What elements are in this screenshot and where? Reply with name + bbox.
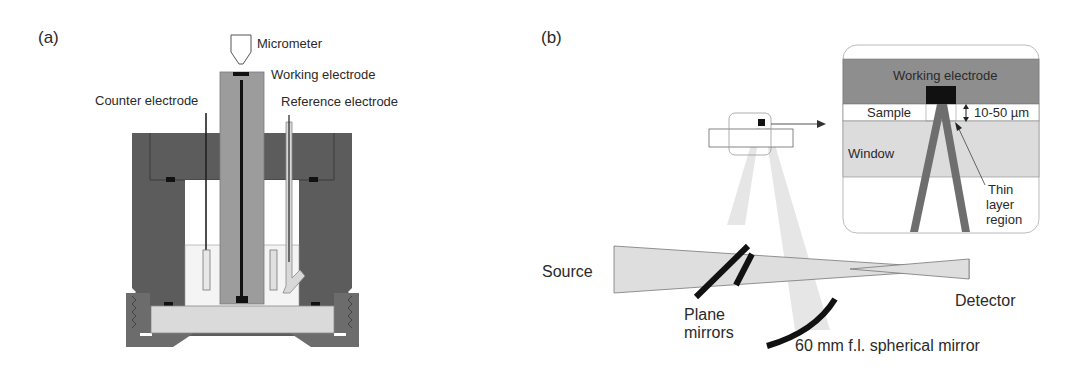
mesh-electrode-icon: [270, 250, 277, 290]
optical-window: [151, 306, 334, 333]
figure-canvas: (a): [0, 0, 1069, 378]
electrode-tip-icon: [758, 119, 765, 126]
plane-mirrors-label-2: mirrors: [684, 324, 734, 341]
counter-electrode-label: Counter electrode: [95, 93, 198, 108]
arrow-head-icon: [817, 120, 826, 128]
o-ring-icon: [309, 177, 318, 182]
spherical-mirror-label: 60 mm f.l. spherical mirror: [795, 337, 981, 354]
panel-a: (a): [38, 28, 398, 347]
panel-b: (b) Source Detector Plane mirrors 60 mm …: [541, 28, 1039, 354]
inset: Working electrode Sample 10-50 µm Window…: [843, 45, 1039, 233]
working-electrode-holder: [220, 72, 264, 304]
sample-stage: [709, 129, 793, 147]
inset-working-electrode-label: Working electrode: [893, 68, 998, 83]
micrometer-icon: [231, 35, 251, 64]
electrode-tip-icon: [236, 296, 248, 303]
inset-window-label: Window: [848, 146, 895, 161]
panel-a-label: (a): [38, 28, 59, 47]
thin-layer-label-3: region: [986, 212, 1022, 227]
micrometer-label: Micrometer: [257, 36, 323, 51]
plane-mirrors-label-1: Plane: [684, 306, 725, 323]
inset-electrode-tip: [926, 86, 956, 104]
panel-b-label: (b): [541, 28, 562, 47]
inset-thickness-label: 10-50 µm: [974, 105, 1029, 120]
reference-electrode-label: Reference electrode: [281, 94, 398, 109]
o-ring-icon: [166, 177, 175, 182]
electrode-tip-icon: [233, 72, 249, 76]
thin-layer-label-2: layer: [986, 197, 1015, 212]
thin-layer-label-1: Thin: [988, 182, 1013, 197]
beam-down: [765, 128, 830, 330]
source-label: Source: [542, 263, 593, 280]
working-electrode-label: Working electrode: [271, 67, 376, 82]
inset-sample-label: Sample: [867, 105, 911, 120]
detector-label: Detector: [955, 292, 1016, 309]
